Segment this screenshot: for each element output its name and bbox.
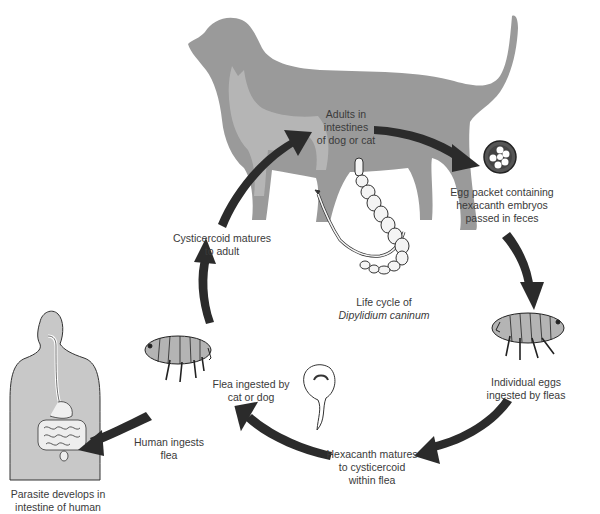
label-line: ingested by fleas: [466, 389, 586, 402]
label-line: to adult: [166, 245, 278, 258]
flea-right-icon: [492, 313, 564, 360]
label-line: of dog or cat: [312, 134, 380, 147]
label-line: Hexacanth matures: [316, 448, 428, 461]
diagram-graphics: [0, 0, 600, 514]
diagram-title: Life cycle of Dipylidium caninum: [326, 296, 442, 322]
label-line: within flea: [316, 474, 428, 487]
stage-human-parasite-label: Parasite develops in intestine of human: [2, 488, 114, 514]
label-line: intestines: [312, 121, 380, 134]
human-body-icon: [10, 311, 100, 480]
label-line: passed in feces: [438, 212, 566, 225]
label-line: hexacanth embryos: [438, 199, 566, 212]
label-line: Flea ingested by: [202, 378, 300, 391]
stage-human-ingests-label: Human ingests flea: [128, 436, 210, 462]
label-line: intestine of human: [2, 501, 114, 514]
stage-hexacanth-label: Hexacanth matures to cysticercoid within…: [316, 448, 428, 487]
stage-eggs-ingested-label: Individual eggs ingested by fleas: [466, 376, 586, 402]
label-line: Egg packet containing: [438, 186, 566, 199]
label-line: Individual eggs: [466, 376, 586, 389]
title-line: Life cycle of: [326, 296, 442, 309]
label-line: Parasite develops in: [2, 488, 114, 501]
label-line: Adults in: [312, 108, 380, 121]
arrow-eggpacket-to-fleas-icon: [502, 232, 544, 310]
stage-cysticercoid-label: Cysticercoid matures to adult: [166, 232, 278, 258]
label-line: Human ingests: [128, 436, 210, 449]
label-line: cat or dog: [202, 391, 300, 404]
stage-adults-label: Adults in intestines of dog or cat: [312, 108, 380, 147]
label-line: to cysticercoid: [316, 461, 428, 474]
arrow-fleas-to-hexacanth-icon: [414, 398, 512, 464]
stage-egg-packet-label: Egg packet containing hexacanth embryos …: [438, 186, 566, 225]
title-species: Dipylidium caninum: [326, 309, 442, 322]
flea-left-icon: [145, 336, 211, 382]
life-cycle-diagram: Adults in intestines of dog or cat Egg p…: [0, 0, 600, 514]
label-line: Cysticercoid matures: [166, 232, 278, 245]
label-line: flea: [128, 449, 210, 462]
stage-flea-ingested-label: Flea ingested by cat or dog: [202, 378, 300, 404]
cysticercoid-icon: [304, 365, 335, 430]
egg-packet-icon: [484, 141, 516, 173]
